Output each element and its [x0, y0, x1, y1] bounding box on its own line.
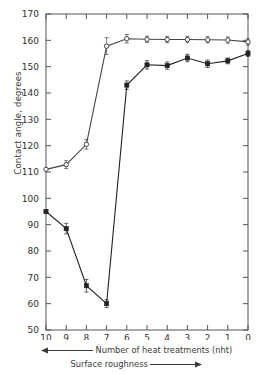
x-tick-label: 6: [124, 333, 130, 340]
x-tick-label: 10: [40, 333, 52, 340]
series-open-circle-series: [44, 35, 250, 172]
data-point-filled-square: [44, 209, 48, 213]
x-tick-label: 3: [185, 333, 191, 340]
x-tick-label: 2: [205, 333, 211, 340]
data-point-open-circle: [205, 38, 209, 42]
data-point-filled-square: [125, 83, 129, 87]
x-tick-label: 1: [225, 333, 231, 340]
data-series-group: [44, 35, 250, 308]
x-axis-caption-roughness-text: Surface roughness: [71, 359, 148, 369]
data-point-open-circle: [104, 44, 108, 48]
right-arrow-icon: [150, 360, 202, 369]
y-tick-label: 80: [28, 246, 40, 256]
data-point-open-circle: [84, 142, 88, 146]
y-tick-label: 110: [22, 167, 39, 177]
x-axis-caption-nht-text: Number of heat treatments (nht): [95, 345, 232, 355]
data-point-open-circle: [246, 40, 250, 44]
y-axis-ticks: 5060708090100110120130140150160170: [22, 9, 248, 335]
y-axis-title: Contact angle, degrees: [13, 43, 23, 203]
data-point-open-circle: [145, 37, 149, 41]
x-tick-label: 8: [84, 333, 90, 340]
data-point-filled-square: [206, 62, 210, 66]
plot-area: 5060708090100110120130140150160170 10987…: [0, 0, 273, 340]
left-arrow-icon: [41, 346, 93, 355]
y-tick-label: 160: [22, 36, 39, 46]
x-tick-label: 0: [245, 333, 251, 340]
x-tick-label: 4: [164, 333, 170, 340]
data-point-filled-square: [165, 64, 169, 68]
data-point-filled-square: [145, 63, 149, 67]
y-tick-label: 70: [28, 273, 40, 283]
data-point-filled-square: [84, 284, 88, 288]
data-point-open-circle: [64, 162, 68, 166]
data-point-open-circle: [44, 167, 48, 171]
x-axis-caption-roughness: Surface roughness: [0, 359, 273, 369]
series-filled-square-series: [44, 51, 250, 308]
x-tick-label: 7: [104, 333, 110, 340]
chart-figure: Contact angle, degrees 50607080901001101…: [0, 0, 273, 375]
y-tick-label: 50: [28, 325, 40, 335]
data-point-filled-square: [105, 302, 109, 306]
x-tick-label: 5: [144, 333, 150, 340]
data-point-filled-square: [226, 59, 230, 63]
y-tick-label: 100: [22, 194, 39, 204]
x-axis-caption-nht: Number of heat treatments (nht): [0, 345, 273, 355]
data-point-open-circle: [226, 38, 230, 42]
data-point-filled-square: [246, 51, 250, 55]
y-tick-label: 120: [22, 141, 39, 151]
data-point-filled-square: [185, 56, 189, 60]
y-tick-label: 130: [22, 115, 39, 125]
data-point-filled-square: [64, 227, 68, 231]
y-tick-label: 150: [22, 62, 39, 72]
series-line: [46, 54, 248, 304]
data-point-open-circle: [185, 37, 189, 41]
y-tick-label: 60: [28, 299, 40, 309]
y-tick-label: 140: [22, 88, 39, 98]
y-tick-label: 90: [28, 220, 40, 230]
series-line: [46, 39, 248, 170]
data-point-open-circle: [165, 37, 169, 41]
data-point-open-circle: [125, 37, 129, 41]
y-tick-label: 170: [22, 9, 39, 19]
x-tick-label: 9: [63, 333, 69, 340]
